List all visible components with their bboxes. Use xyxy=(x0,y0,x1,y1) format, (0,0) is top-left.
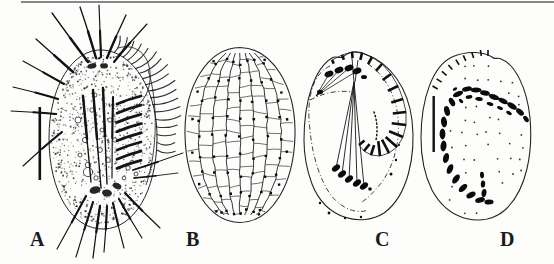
panel-b-drawing xyxy=(185,48,295,223)
cell-outline xyxy=(421,52,531,220)
cirral-fibers xyxy=(336,58,364,186)
panel-d-drawing xyxy=(421,50,531,220)
scale-bar xyxy=(39,107,42,180)
panel-a-drawing xyxy=(11,5,183,258)
dorsal-hatch xyxy=(433,50,489,89)
panel-a-label: A xyxy=(30,229,44,249)
panel-c-label: C xyxy=(375,229,389,249)
body-stipple xyxy=(51,52,155,225)
paroral-dotted-arc xyxy=(374,112,377,140)
panel-d-label: D xyxy=(500,229,514,249)
adoral-membranelles xyxy=(332,52,406,156)
membranelle-band xyxy=(117,96,141,168)
scale-bar xyxy=(433,96,435,152)
macronucleus xyxy=(440,86,530,205)
panel-c-drawing xyxy=(304,52,413,220)
transverse-cirri xyxy=(331,163,372,191)
panel-b-label: B xyxy=(186,229,199,249)
figure-plate xyxy=(0,0,554,264)
figure-page: A B C D xyxy=(0,0,554,264)
frontal-cirri xyxy=(313,64,367,136)
